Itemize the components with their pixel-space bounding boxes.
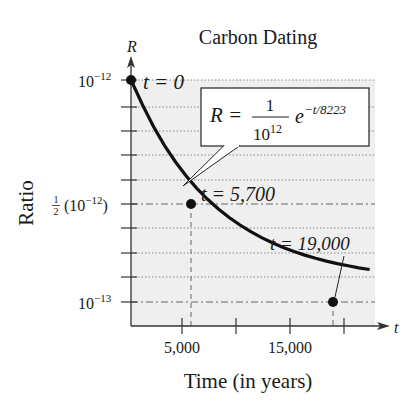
equation-lhs: R =	[209, 103, 242, 127]
carbon-dating-chart: Carbon Dating R t 10−12 (10−12) 1 2 10−1…	[0, 0, 403, 404]
point-label-t5700: t = 5,700	[201, 183, 275, 205]
y-axis-symbol: R	[126, 38, 137, 55]
x-tick-label-15000: 15,000	[268, 339, 312, 356]
point-label-t19000: t = 19,000	[270, 233, 350, 254]
y-label-top: 10−12	[78, 70, 111, 90]
point-t0	[126, 75, 136, 85]
x-tick-label-5000: 5,000	[164, 339, 200, 356]
point-t5700	[186, 199, 196, 209]
equation-numerator: 1	[266, 96, 275, 115]
y-label-half-num: 1	[54, 194, 59, 205]
y-label-bottom: 10−13	[78, 292, 112, 312]
y-axis-label: Ratio	[14, 180, 38, 226]
x-axis-symbol: t	[394, 319, 399, 336]
point-t19000	[328, 297, 338, 307]
y-label-half: (10−12)	[64, 194, 108, 215]
chart-title: Carbon Dating	[199, 26, 317, 49]
x-axis-label: Time (in years)	[184, 369, 313, 393]
y-label-half-den: 2	[54, 206, 59, 217]
point-label-t0: t = 0	[143, 70, 185, 94]
